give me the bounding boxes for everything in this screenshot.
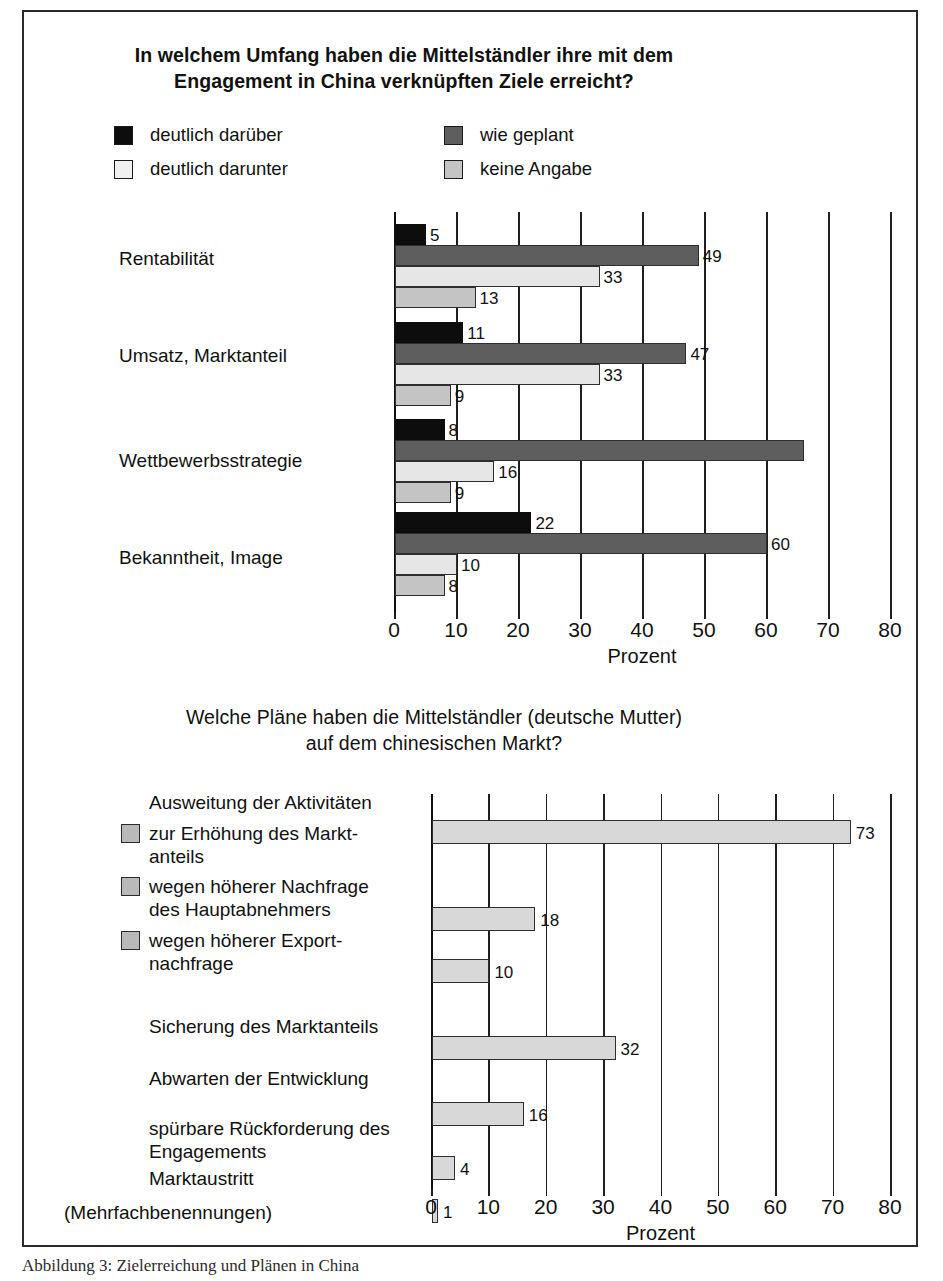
bar: [432, 907, 535, 931]
gridline: [833, 794, 835, 1189]
x-tick-label: 60: [755, 1195, 795, 1219]
chart1-x-axis-title: Prozent: [394, 645, 890, 668]
x-tick-label: 20: [498, 618, 538, 642]
bar-value-label: 11: [467, 325, 485, 342]
bar: [395, 245, 699, 266]
bar-value-label: 22: [535, 515, 554, 532]
chart2-category-label-line: Sicherung des Marktanteils: [149, 1015, 378, 1038]
chart2-category-label-line: Abwarten der Entwicklung: [149, 1067, 369, 1090]
chart1-plot-area: 5493313114733981692260108: [394, 212, 890, 612]
bar: [395, 482, 451, 503]
legend-swatch-icon: [114, 160, 133, 179]
x-tick-label: 70: [808, 618, 848, 642]
bar: [395, 364, 600, 385]
x-tick-label: 70: [813, 1195, 853, 1219]
gridline: [661, 794, 663, 1189]
bar-value-label: 9: [455, 388, 464, 405]
legend-item-keine-angabe: keine Angabe: [444, 158, 592, 179]
chart2-category-label-line: wegen höherer Export-: [149, 929, 342, 952]
x-tick-label: 20: [526, 1195, 566, 1219]
chart2-title: Welche Pläne haben die Mittelständler (d…: [64, 704, 804, 756]
bar-value-label: 33: [604, 269, 623, 286]
chart2-category-label: wegen höherer Nachfragedes Hauptabnehmer…: [149, 875, 369, 921]
chart1-title: In welchem Umfang haben die Mittelständl…: [84, 42, 724, 94]
legend-swatch-icon: [444, 126, 463, 145]
bar: [395, 322, 463, 343]
x-tick-label: 50: [698, 1195, 738, 1219]
chart2-category-label-line: spürbare Rückforderung des: [149, 1117, 390, 1140]
bar-value-label: 4: [460, 1161, 469, 1178]
chart2-category-label: zur Erhöhung des Markt-anteils: [149, 822, 358, 868]
bar-value-label: 33: [604, 367, 623, 384]
chart2-category-swatch-icon: [121, 931, 140, 950]
gridline: [718, 794, 720, 1189]
bar: [395, 440, 804, 461]
x-tick-label: 80: [870, 1195, 910, 1219]
x-tick-label: 10: [436, 618, 476, 642]
chart1-title-line2: Engagement in China verknüpften Ziele er…: [84, 68, 724, 94]
chart2-category-label-line: zur Erhöhung des Markt-: [149, 822, 358, 845]
bar: [395, 419, 445, 440]
x-tick-label: 30: [583, 1195, 623, 1219]
gridline: [431, 794, 433, 1189]
bar: [432, 1156, 455, 1180]
chart2-plot-area: 731810321641: [431, 794, 890, 1189]
figure-frame: In welchem Umfang haben die Mittelständl…: [22, 10, 918, 1247]
chart1-category-label: Wettbewerbsstrategie: [119, 450, 302, 472]
bar: [395, 287, 476, 308]
chart2-category-label: Sicherung des Marktanteils: [149, 1015, 378, 1038]
x-tick-label: 40: [622, 618, 662, 642]
x-tick-label: 30: [560, 618, 600, 642]
legend-label: keine Angabe: [480, 158, 592, 179]
x-tick-label: 80: [870, 618, 910, 642]
bar-value-label: 16: [529, 1107, 548, 1124]
x-tick-label: 0: [374, 618, 414, 642]
chart2-x-axis-title: Prozent: [431, 1222, 890, 1245]
bar: [432, 820, 851, 844]
bar: [432, 1036, 616, 1060]
gridline: [488, 794, 490, 1189]
legend-item-wie-geplant: wie geplant: [444, 124, 574, 145]
chart1-category-label: Umsatz, Marktanteil: [119, 345, 287, 367]
bar: [395, 554, 457, 575]
bar-value-label: 32: [621, 1041, 640, 1058]
gridline: [890, 212, 892, 612]
bar-value-label: 13: [480, 290, 499, 307]
chart1-category-label: Bekanntheit, Image: [119, 547, 283, 569]
x-tick-label: 40: [641, 1195, 681, 1219]
legend-label: deutlich darüber: [150, 124, 283, 145]
x-tick-label: 10: [468, 1195, 508, 1219]
bar-value-label: 8: [449, 422, 458, 439]
chart2-category-label-line: nachfrage: [149, 952, 342, 975]
chart2-category-swatch-icon: [121, 824, 140, 843]
chart2-category-label: Abwarten der Entwicklung: [149, 1067, 369, 1090]
chart1-title-line1: In welchem Umfang haben die Mittelständl…: [84, 42, 724, 68]
gridline: [890, 794, 892, 1189]
bar-value-label: 10: [494, 964, 513, 981]
bar-value-label: 16: [498, 464, 517, 481]
legend-item-deutlich-darunter: deutlich darunter: [114, 158, 444, 179]
x-tick-label: 60: [746, 618, 786, 642]
bar: [395, 512, 531, 533]
bar: [432, 959, 489, 983]
legend-label: wie geplant: [480, 124, 574, 145]
chart1-category-label: Rentabilität: [119, 248, 214, 270]
chart2-footnote: (Mehrfachbenennungen): [64, 1202, 272, 1224]
legend-swatch-icon: [114, 126, 133, 145]
bar-value-label: 47: [690, 346, 709, 363]
bar-value-label: 10: [461, 557, 480, 574]
legend-row: deutlich darunter keine Angabe: [114, 158, 714, 192]
bar: [395, 385, 451, 406]
chart2-title-line2: auf dem chinesischen Markt?: [64, 730, 804, 756]
gridline: [775, 794, 777, 1189]
bar-value-label: 8: [449, 578, 458, 595]
bar-value-label: 5: [430, 227, 439, 244]
chart2-category-label: spürbare Rückforderung desEngagements: [149, 1117, 390, 1163]
legend-item-deutlich-darueber: deutlich darüber: [114, 124, 444, 145]
x-tick-label: 50: [684, 618, 724, 642]
gridline: [546, 794, 548, 1189]
chart2-category-label-line: des Hauptabnehmers: [149, 898, 369, 921]
bar-value-label: 49: [703, 248, 722, 265]
chart1-legend: deutlich darüber wie geplant deutlich da…: [114, 124, 714, 192]
gridline: [828, 212, 830, 612]
